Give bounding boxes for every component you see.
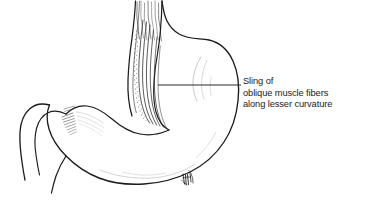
- pyloric-antrum: [47, 105, 169, 156]
- callout-label: Sling of oblique muscle fibers along les…: [243, 76, 365, 111]
- antrum-shading: [76, 112, 104, 136]
- pylorus-hatching: [62, 106, 77, 135]
- greater-curvature-shading: [100, 132, 216, 178]
- callout-line-1: Sling of: [243, 76, 365, 88]
- lesser-curvature: [154, 53, 169, 130]
- fundus-shading: [193, 57, 211, 101]
- callout-line-3: along lesser curvature: [243, 99, 365, 111]
- gastric-fundus-outline: [66, 1, 239, 184]
- anatomical-figure: Sling of oblique muscle fibers along les…: [0, 0, 365, 218]
- callout-line-2: oblique muscle fibers: [243, 88, 365, 100]
